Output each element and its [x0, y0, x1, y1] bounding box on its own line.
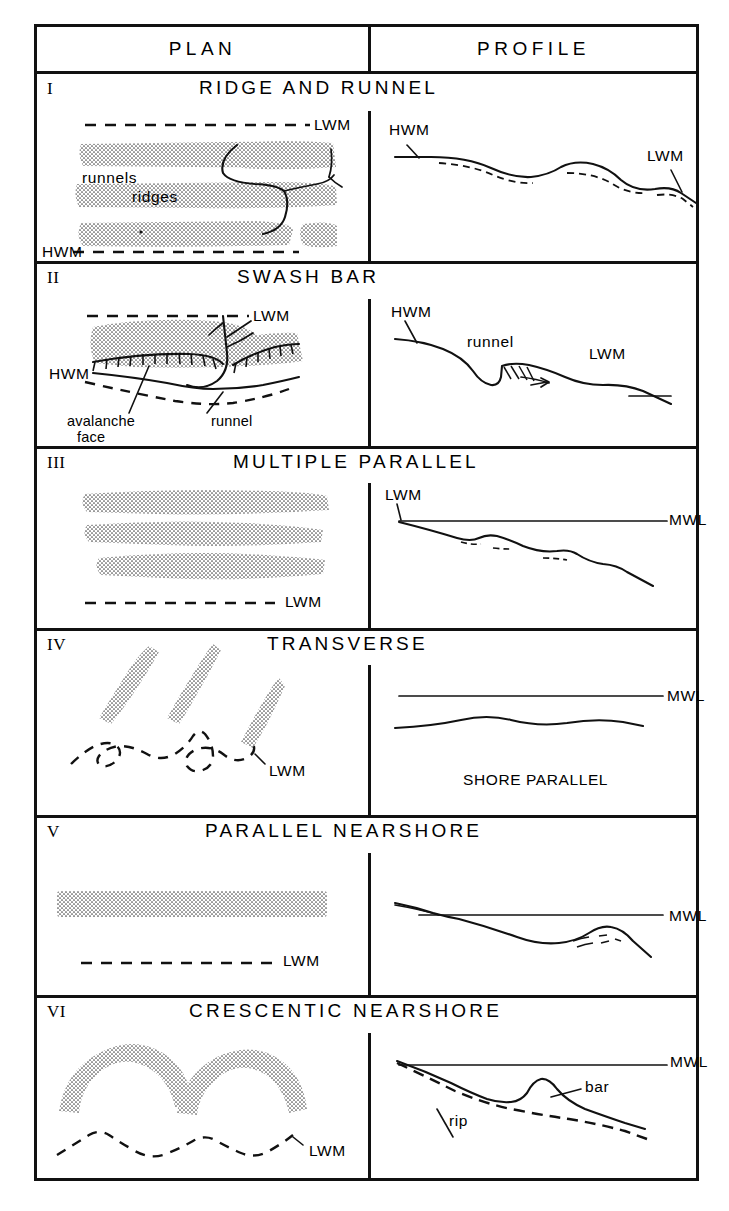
profile-hwm-label-i: HWM [389, 121, 430, 139]
ridge-band-lower-right [300, 222, 337, 247]
profile-multiple-bar-surface [399, 522, 653, 586]
transverse-bar-2 [167, 644, 221, 724]
avalanche-face-label: face [77, 429, 105, 445]
row-ii-profile-drawing [371, 261, 702, 446]
profile-lwm-label-i: LWM [647, 147, 684, 165]
row-i-plan-drawing [37, 27, 368, 261]
ridge-band-upper-right [238, 141, 336, 169]
parallel-bar-2 [84, 521, 323, 546]
crescentic-bar-right [177, 1049, 307, 1115]
profile-rip-dashed-line [397, 1063, 647, 1139]
plan-lwm-label-v: LWM [283, 952, 320, 970]
profile-bar-dash-1 [461, 542, 481, 544]
plan-lwm-label-iii: LWM [285, 593, 322, 611]
row-i-profile-drawing [371, 27, 702, 261]
transverse-bar-3 [241, 678, 285, 748]
plan-runnel-leader-ii [207, 392, 223, 413]
profile-mwl-label-vi: MWL [670, 1053, 708, 1071]
beach-morphology-figure: PLAN PROFILE I RIDGE AND RUNNEL [0, 0, 729, 1211]
parallel-nearshore-bar [57, 891, 327, 917]
profile-parallel-nearshore-surface [395, 903, 651, 957]
parallel-bar-3 [96, 553, 325, 579]
parallel-bar-1 [82, 490, 329, 515]
plan-lwm-label-ii: LWM [253, 307, 290, 325]
row-v-profile-drawing [371, 815, 702, 995]
profile-swash-surface [395, 339, 671, 404]
profile-bar-dash-3 [543, 558, 567, 560]
plan-ridges-label: ridges [132, 188, 178, 206]
plan-lwm-leader-vi [293, 1137, 303, 1145]
transverse-bar-1 [99, 646, 159, 724]
profile-bar-dash-2 [493, 548, 511, 549]
profile-rip-label: rip [449, 1112, 468, 1130]
row-iii-profile-drawing [371, 446, 702, 628]
plan-hwm-label-ii: HWM [49, 365, 90, 383]
profile-mwl-label-iv: MWL [667, 687, 705, 705]
profile-bar-leader [551, 1089, 581, 1097]
plan-hwm-label-i: HWM [42, 243, 83, 261]
profile-shore-parallel-caption: SHORE PARALLEL [463, 771, 608, 789]
ridge-band-lower-left [78, 221, 293, 247]
avalanche-label: avalanche [67, 413, 135, 429]
plan-lwm-leader-iv [255, 754, 265, 764]
avalanche-face-leader [129, 366, 149, 413]
plan-runnel-label-ii: runnel [211, 413, 253, 429]
figure-frame: PLAN PROFILE I RIDGE AND RUNNEL [34, 24, 699, 1181]
profile-shoreline-v [395, 905, 439, 915]
row-iv-plan-drawing [37, 628, 368, 815]
plan-runnels-label: runnels [82, 169, 137, 187]
plan-lwm-label-iv: LWM [269, 762, 306, 780]
profile-bar-label: bar [585, 1078, 609, 1096]
profile-runnel-label-ii: runnel [467, 333, 514, 351]
profile-runnel-dash-2 [567, 173, 647, 193]
profile-lwm-label-ii: LWM [589, 345, 626, 363]
plan-lwm-crescentic-line [57, 1132, 293, 1156]
plan-speck [139, 230, 142, 233]
plan-lwm-transverse-line [71, 731, 254, 771]
profile-mwl-label-iii: MWL [669, 511, 707, 529]
profile-hwm-label-ii: HWM [391, 303, 432, 321]
crescentic-bar-left [59, 1044, 193, 1113]
row-vi-profile-drawing [371, 995, 702, 1181]
plan-lwm-label-i: LWM [314, 116, 351, 134]
profile-lwm-leader-iii [397, 504, 401, 520]
profile-shore-parallel-contour [395, 717, 643, 728]
profile-lwm-label-iii: LWM [385, 486, 422, 504]
profile-mwl-label-v: MWL [669, 907, 707, 925]
plan-lwm-label-vi: LWM [309, 1142, 346, 1160]
